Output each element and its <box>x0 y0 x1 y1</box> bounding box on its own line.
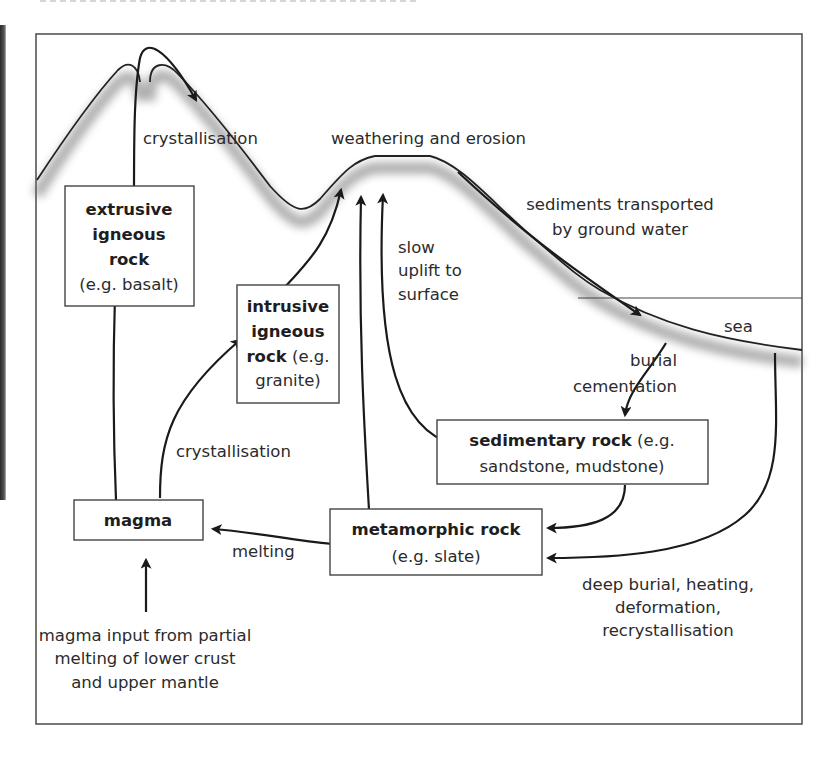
sedimentary-example-start: (e.g. <box>632 431 675 450</box>
label-magma-input-line-1: magma input from partial <box>39 626 252 645</box>
label-sediments-line-2: by ground water <box>552 220 688 239</box>
arrow-sedimentary-uplift <box>382 195 455 445</box>
intrusive-example-tail: granite) <box>255 371 320 390</box>
label-weathering-erosion: weathering and erosion <box>331 129 526 148</box>
metamorphic-example: (e.g. slate) <box>391 547 480 566</box>
sedimentary-example-tail: sandstone, mudstone) <box>479 457 664 476</box>
label-uplift-line-3: surface <box>398 285 459 304</box>
metamorphic-name: metamorphic rock <box>351 520 521 539</box>
intrusive-line-3: rock (e.g. <box>246 347 329 366</box>
arrow-magma-to-intrusive <box>160 340 240 498</box>
label-uplift-line-2: uplift to <box>398 261 462 280</box>
sea-label: sea <box>724 317 753 336</box>
extrusive-name-line-3: rock <box>109 250 150 269</box>
intrusive-name-rock: rock <box>246 347 287 366</box>
extrusive-name-line-2: igneous <box>92 225 165 244</box>
arrow-magma-to-extrusive <box>114 295 116 500</box>
label-deep-burial-line-2: deformation, <box>615 598 721 617</box>
extrusive-name-line-1: extrusive <box>85 200 172 219</box>
intrusive-name-line-2: igneous <box>251 322 324 341</box>
label-burial-line-1: burial <box>630 351 677 370</box>
box-sedimentary-rock: sedimentary rock (e.g. sandstone, mudsto… <box>437 420 708 484</box>
sedimentary-line-1: sedimentary rock (e.g. <box>469 431 674 450</box>
magma-name: magma <box>104 511 172 530</box>
label-melting: melting <box>232 542 295 561</box>
label-deep-burial-line-3: recrystallisation <box>602 621 733 640</box>
label-crystallisation-mid: crystallisation <box>176 442 291 461</box>
label-uplift-line-1: slow <box>398 238 435 257</box>
label-crystallisation-top: crystallisation <box>143 129 258 148</box>
box-extrusive-igneous-rock: extrusive igneous rock (e.g. basalt) <box>65 186 194 306</box>
box-metamorphic-rock: metamorphic rock (e.g. slate) <box>330 509 542 575</box>
rock-cycle-diagram: sea extrusive igneous rock (e.g. basalt)… <box>0 0 827 758</box>
box-magma: magma <box>74 500 203 540</box>
sedimentary-name: sedimentary rock <box>469 431 633 450</box>
intrusive-example-start: (e.g. <box>287 347 330 366</box>
intrusive-name-line-1: intrusive <box>247 297 330 316</box>
box-intrusive-igneous-rock: intrusive igneous rock (e.g. granite) <box>237 285 339 403</box>
label-magma-input-line-3: and upper mantle <box>71 673 219 692</box>
arrow-metamorphic-uplift <box>360 197 369 510</box>
label-deep-burial-line-1: deep burial, heating, <box>582 575 754 594</box>
label-sediments-line-1: sediments transported <box>526 195 714 214</box>
arrow-sedimentary-to-metamorphic <box>548 485 625 528</box>
label-magma-input-line-2: melting of lower crust <box>55 649 236 668</box>
extrusive-example: (e.g. basalt) <box>79 275 179 294</box>
label-burial-line-2: cementation <box>573 377 677 396</box>
